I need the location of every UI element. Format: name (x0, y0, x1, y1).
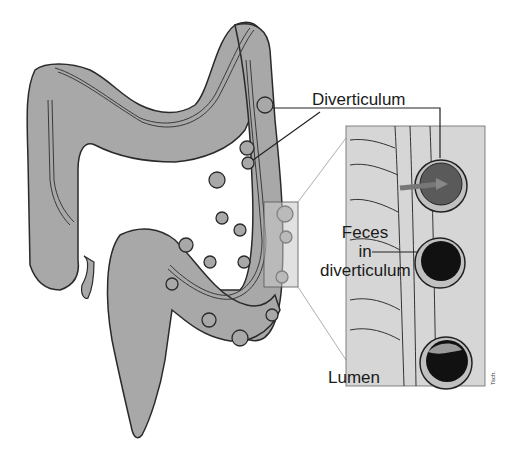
colon-diagram (0, 0, 510, 449)
label-feces-line3: diverticulum (320, 261, 410, 280)
label-feces-line1: Feces (320, 223, 410, 242)
label-feces-in-diverticulum: Feces in diverticulum (320, 223, 410, 280)
label-lumen: Lumen (328, 369, 380, 387)
label-feces-line2: in (320, 242, 410, 261)
artist-signature: Tsch. (490, 371, 496, 385)
label-diverticulum: Diverticulum (312, 91, 406, 109)
magnified-region-box (264, 202, 298, 287)
